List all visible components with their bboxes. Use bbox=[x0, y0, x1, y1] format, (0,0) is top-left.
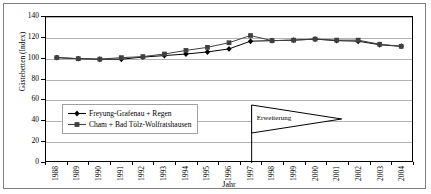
x-axis-tick-mark bbox=[370, 162, 371, 165]
legend-item-series2: Cham + Bad Tölz-Wolfratshausen bbox=[67, 119, 191, 130]
x-axis-tick-label: 2002 bbox=[355, 166, 363, 181]
diamond-marker-icon bbox=[67, 109, 87, 118]
x-axis-tick-label: 2003 bbox=[377, 166, 385, 181]
x-axis-tick-mark bbox=[218, 162, 219, 165]
x-axis-tick-label: 1996 bbox=[225, 166, 233, 181]
x-axis-tick-mark bbox=[261, 162, 262, 165]
data-point-marker bbox=[248, 33, 253, 38]
y-axis-tick-label: 20 bbox=[7, 137, 39, 145]
data-point-marker bbox=[291, 38, 296, 43]
data-point-marker bbox=[162, 52, 167, 57]
x-axis-tick-mark bbox=[326, 162, 327, 165]
x-axis-tick-label: 1993 bbox=[160, 166, 168, 181]
data-point-marker bbox=[97, 57, 102, 62]
x-axis-tick-label: 1990 bbox=[95, 166, 103, 181]
x-axis-tick-label: 1988 bbox=[52, 166, 60, 181]
x-axis-tick-mark bbox=[153, 162, 154, 165]
data-point-marker bbox=[119, 55, 124, 60]
x-axis-tick-label: 1999 bbox=[290, 166, 298, 181]
x-axis-tick-mark bbox=[132, 162, 133, 165]
x-axis-tick-label: 1997 bbox=[247, 166, 255, 181]
data-point-marker bbox=[54, 55, 59, 60]
x-axis-tick-mark bbox=[391, 162, 392, 165]
y-axis-tick-label: 0 bbox=[7, 158, 39, 166]
x-axis-tick-mark bbox=[305, 162, 306, 165]
data-point-marker bbox=[248, 38, 253, 44]
x-axis-tick-mark bbox=[45, 162, 46, 165]
x-axis-tick-mark bbox=[197, 162, 198, 165]
legend-label-series1: Freyung-Grafenau + Regen bbox=[89, 109, 172, 118]
chart-figure: 140120100806040200 Gästebetten (Index) E… bbox=[3, 3, 426, 189]
x-axis-tick-mark bbox=[110, 162, 111, 165]
plot-area: Erweiterung Freyung-Grafenau + Regen Cha… bbox=[45, 16, 413, 162]
data-point-marker bbox=[399, 44, 404, 49]
x-axis-tick-label: 1989 bbox=[73, 166, 81, 181]
x-axis-tick-mark bbox=[88, 162, 89, 165]
data-point-marker bbox=[356, 38, 361, 43]
x-axis: 1988198919901991199219931994199519961997… bbox=[45, 162, 413, 194]
data-point-marker bbox=[270, 38, 275, 43]
square-marker-icon bbox=[67, 120, 87, 129]
x-axis-tick-label: 1994 bbox=[182, 166, 190, 181]
data-point-marker bbox=[334, 38, 339, 43]
data-point-marker bbox=[184, 48, 189, 53]
x-axis-tick-mark bbox=[175, 162, 176, 165]
x-axis-tick-label: 1991 bbox=[117, 166, 125, 181]
x-axis-tick-label: 2001 bbox=[333, 166, 341, 181]
y-axis-title: Gästebetten (Index) bbox=[18, 2, 27, 122]
x-axis-tick-mark bbox=[240, 162, 241, 165]
x-axis-tick-label: 1992 bbox=[138, 166, 146, 181]
series-canvas bbox=[46, 17, 412, 161]
data-point-marker bbox=[226, 46, 231, 52]
x-axis-tick-label: 2004 bbox=[398, 166, 406, 181]
data-point-marker bbox=[227, 40, 232, 45]
data-point-marker bbox=[205, 45, 210, 50]
x-axis-tick-mark bbox=[348, 162, 349, 165]
x-axis-tick-mark bbox=[413, 162, 414, 165]
legend-label-series2: Cham + Bad Tölz-Wolfratshausen bbox=[89, 120, 191, 129]
x-axis-tick-label: 2000 bbox=[312, 166, 320, 181]
data-point-marker bbox=[313, 37, 318, 42]
x-axis-tick-mark bbox=[283, 162, 284, 165]
data-point-marker bbox=[76, 56, 81, 61]
x-axis-tick-mark bbox=[67, 162, 68, 165]
legend-item-series1: Freyung-Grafenau + Regen bbox=[67, 108, 191, 119]
data-point-marker bbox=[377, 42, 382, 47]
x-axis-tick-label: 1995 bbox=[203, 166, 211, 181]
data-point-marker bbox=[205, 49, 210, 55]
legend: Freyung-Grafenau + Regen Cham + Bad Tölz… bbox=[62, 104, 198, 134]
x-axis-title: Jahr bbox=[45, 180, 413, 189]
data-point-marker bbox=[140, 54, 145, 59]
x-axis-tick-label: 1998 bbox=[268, 166, 276, 181]
